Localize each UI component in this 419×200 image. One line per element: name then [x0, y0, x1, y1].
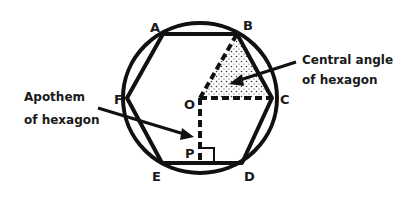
apothem-arrowhead	[180, 128, 194, 140]
label-O: O	[184, 97, 195, 112]
label-C: C	[280, 92, 290, 107]
label-P: P	[185, 146, 195, 161]
central-angle-caption-line2: of hexagon	[302, 73, 378, 87]
apothem-caption-line1: Apothem	[24, 90, 85, 104]
label-B: B	[243, 18, 253, 33]
hexagon-diagram: A B C D E F O P Central angle of hexagon…	[0, 0, 419, 200]
apothem-arrow	[98, 108, 184, 134]
apothem-caption-line2: of hexagon	[24, 113, 100, 127]
right-angle-marker	[202, 148, 214, 163]
label-F: F	[114, 92, 123, 107]
central-angle-caption-line1: Central angle	[302, 53, 393, 67]
label-A: A	[150, 20, 160, 35]
label-E: E	[152, 169, 161, 184]
central-angle-region	[200, 34, 272, 98]
label-D: D	[244, 169, 255, 184]
